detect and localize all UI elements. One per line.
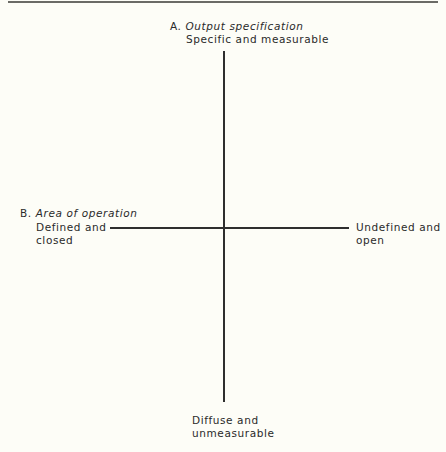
left-pole-line-1: Defined and	[36, 221, 107, 234]
axis-b-title: B. Area of operation	[20, 207, 138, 220]
axis-a-top-pole: Specific and measurable	[186, 33, 329, 46]
right-pole-line-2: open	[356, 234, 441, 247]
axis-a-prefix: A.	[170, 20, 182, 32]
right-pole-line-1: Undefined and	[356, 221, 441, 234]
axis-b-prefix: B.	[20, 207, 32, 219]
left-pole-line-2: closed	[36, 234, 107, 247]
bottom-pole-line-1: Diffuse and	[192, 414, 275, 427]
axis-b-left-pole: Defined and closed	[36, 221, 107, 247]
axis-a-bottom-pole: Diffuse and unmeasurable	[192, 414, 275, 440]
horizontal-axis-area-of-operation	[110, 227, 349, 229]
top-rule	[8, 1, 438, 3]
bottom-pole-line-2: unmeasurable	[192, 427, 275, 440]
axis-b-name: Area of operation	[36, 207, 138, 219]
axis-a-name: Output specification	[186, 20, 304, 32]
axis-a-title: A. Output specification	[170, 20, 304, 33]
axis-b-right-pole: Undefined and open	[356, 221, 441, 247]
